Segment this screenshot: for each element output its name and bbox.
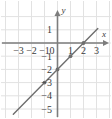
y-tick-label--5: −5 <box>41 104 52 115</box>
plot-background <box>0 0 112 119</box>
x-tick-label-3: 3 <box>94 45 99 56</box>
y-tick-label--3: −3 <box>41 77 52 88</box>
x-tick-label--2: −2 <box>26 45 37 56</box>
x-tick-label--3: −3 <box>13 45 24 56</box>
y-axis-name: y <box>61 5 66 15</box>
graph-canvas: −3−2−112301−1−2−3−4−5xy <box>0 0 112 119</box>
data-point-marker <box>56 68 60 72</box>
y-tick-label--1: −1 <box>41 51 52 62</box>
x-tick-label-2: 2 <box>81 45 86 56</box>
coordinate-plane-graph: −3−2−112301−1−2−3−4−5xy <box>0 0 112 119</box>
x-tick-label-1: 1 <box>68 45 73 56</box>
y-tick-label--2: −2 <box>41 64 52 75</box>
y-tick-label--4: −4 <box>41 90 52 101</box>
y-tick-label-1: 1 <box>47 24 52 35</box>
x-axis-name: x <box>101 29 106 39</box>
